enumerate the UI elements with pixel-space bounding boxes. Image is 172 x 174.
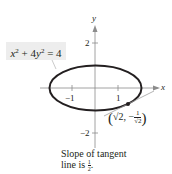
- eq-rhs: = 4: [44, 47, 61, 59]
- equation-pointer: [52, 60, 56, 69]
- x-tick-label-1: 1: [116, 93, 121, 103]
- paren-close: ): [141, 110, 146, 126]
- caption-line2: line is 12.: [61, 159, 127, 172]
- x-tick-label-minus1: −1: [65, 93, 75, 103]
- y-axis-label: y: [92, 13, 96, 23]
- caption-period: .: [91, 159, 94, 170]
- y-tick-label-2: 2: [85, 38, 90, 48]
- x-axis-label: x: [161, 82, 165, 92]
- y-tick-label-minus2: −2: [80, 128, 90, 138]
- caption-line2-text: line is: [61, 159, 88, 170]
- caption-line1: Slope of tangent: [61, 148, 127, 159]
- caption: Slope of tangent line is 12.: [61, 148, 127, 172]
- equation-label: x2 + 4y2 = 4: [6, 42, 66, 60]
- y-axis-arrow-icon: [93, 25, 98, 32]
- x-axis-arrow-icon: [153, 86, 160, 91]
- tangent-point: [126, 102, 130, 106]
- point-x: √2,: [113, 111, 126, 122]
- ellipse-tangent-figure: x2 + 4y2 = 4 y x −1 1 2 −2 (√2, −1√2) Sl…: [0, 0, 172, 174]
- tangent-point-label: (√2, −1√2): [108, 110, 146, 125]
- point-minus: −: [126, 111, 134, 122]
- eq-plus: + 4: [19, 47, 36, 59]
